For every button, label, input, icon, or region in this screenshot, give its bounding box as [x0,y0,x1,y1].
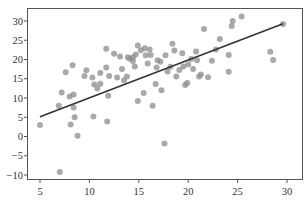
y-tick-label: −5 [12,150,23,161]
x-axis: 51015202530 [37,180,292,198]
data-point [150,103,156,109]
data-point [148,52,154,58]
y-tick-label: −10 [7,170,23,181]
x-tick-label: 5 [37,186,42,197]
data-point [56,103,62,109]
data-point [173,73,179,79]
data-point [97,81,103,87]
y-tick-label: 10 [13,93,24,104]
data-point [104,119,110,125]
data-point [154,65,160,71]
data-point [163,52,169,58]
data-point [59,90,65,96]
data-point [68,122,74,128]
data-point [132,63,138,69]
data-point [70,62,76,68]
y-tick-label: 0 [18,131,23,142]
data-point [153,81,159,87]
data-point [171,48,177,54]
x-tick-label: 15 [134,186,145,197]
data-point [82,73,88,79]
data-point [57,169,63,175]
data-point [179,50,185,56]
data-point [124,73,130,79]
data-point [145,60,151,66]
data-point [89,75,95,81]
data-point [229,23,235,29]
data-point [239,13,245,19]
data-point [226,52,232,58]
data-point [201,26,207,32]
data-point [198,72,204,78]
x-tick-label: 20 [183,186,194,197]
data-point [114,75,120,81]
data-point [193,48,199,54]
scatter-chart: −10−5051015202530 51015202530 [0,0,305,205]
data-point [184,80,190,86]
data-point [106,73,112,79]
data-point [159,87,165,93]
y-tick-label: 5 [18,112,23,123]
data-point [72,114,78,120]
data-point [130,54,136,60]
x-tick-label: 30 [282,186,293,197]
data-point [71,92,77,98]
data-point [103,46,109,52]
data-point [119,66,125,72]
y-tick-label: 30 [13,16,24,27]
data-point [147,47,153,53]
data-point [205,74,211,80]
data-point [141,90,147,96]
data-point [63,69,69,75]
data-point [190,66,196,72]
data-point [117,53,123,59]
data-point [267,49,273,55]
data-point [90,114,96,120]
data-point [226,69,232,75]
data-point [97,70,103,76]
data-point [75,133,81,139]
data-point [103,65,109,71]
y-tick-label: 15 [13,73,24,84]
x-tick-label: 25 [232,186,243,197]
data-point [162,140,168,146]
data-point [37,122,43,128]
y-tick-label: 20 [13,54,24,65]
data-point [83,67,89,73]
data-point [217,36,223,42]
x-tick-label: 10 [84,186,95,197]
data-point [155,57,161,63]
y-tick-label: 25 [13,35,24,46]
data-point [270,57,276,63]
data-point [209,58,215,64]
y-axis: −10−5051015202530 [7,16,28,181]
data-point [142,45,148,51]
data-point [111,51,117,57]
data-point [169,41,175,47]
data-point [185,62,191,68]
data-point [105,93,111,99]
data-point [230,18,236,24]
data-point [135,98,141,104]
